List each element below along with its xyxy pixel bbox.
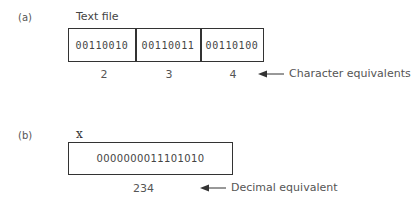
decimal-value: 234 xyxy=(133,182,154,195)
char-equivalent: 3 xyxy=(154,68,184,81)
byte-cell: 00110010 xyxy=(69,29,135,61)
character-equivalents-annotation: Character equivalents xyxy=(258,67,411,80)
arrow-left-icon xyxy=(200,184,226,192)
decimal-equivalent-annotation: Decimal equivalent xyxy=(200,181,338,194)
byte-cell: 00110100 xyxy=(201,29,263,61)
variable-box: 0000000011101010 xyxy=(68,142,233,175)
binary-value: 0000000011101010 xyxy=(69,143,232,174)
byte-cell: 00110011 xyxy=(136,29,200,61)
panel-a-label: (a) xyxy=(18,12,32,23)
text-file-box: 00110010 00110011 00110100 xyxy=(68,28,264,62)
annotation-text: Decimal equivalent xyxy=(231,181,338,194)
arrow-left-icon xyxy=(258,70,284,78)
char-equivalent: 4 xyxy=(218,68,248,81)
panel-b-label: (b) xyxy=(18,130,32,141)
panel-a-title: Text file xyxy=(76,10,119,23)
variable-name: x xyxy=(76,127,83,141)
char-equivalent: 2 xyxy=(89,68,119,81)
annotation-text: Character equivalents xyxy=(289,67,411,80)
